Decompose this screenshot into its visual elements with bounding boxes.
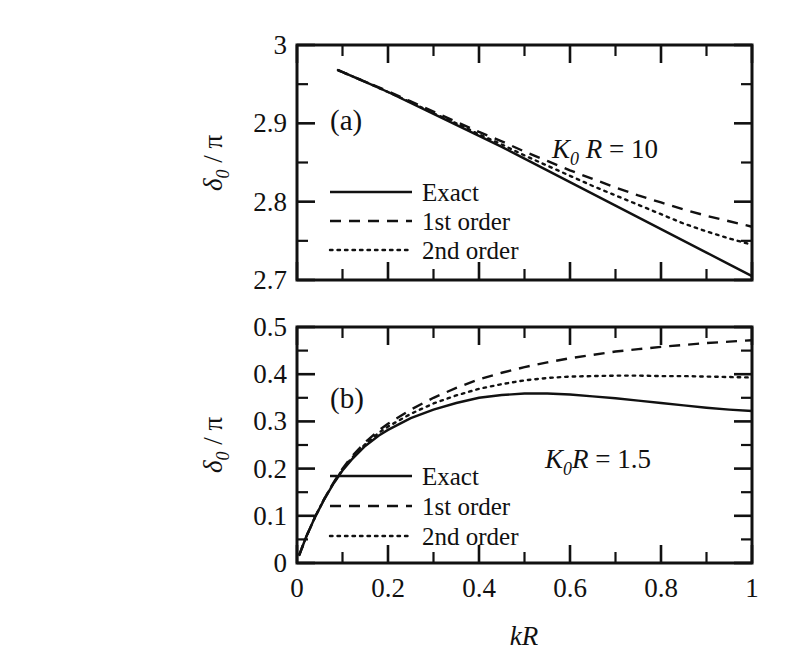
panel-a-y-major-ticks — [297, 45, 752, 280]
panel-b-yaxis-title: δ0 / π — [198, 417, 233, 474]
panel-a-annot-k: K — [551, 134, 572, 164]
svg-text:K0R = 1.5: K0R = 1.5 — [544, 444, 651, 479]
panel-a-legend: Exact 1st order 2nd order — [330, 179, 519, 264]
panel-a-yaxis-title: δ0 / π — [198, 135, 233, 192]
panel-b-ytick-label-2: 0.2 — [253, 454, 287, 484]
panel-a-y-minor-ticks — [297, 84, 752, 241]
panel-b-curve-exact — [299, 394, 752, 555]
panel-a-ylabel-delta: δ — [198, 178, 228, 191]
panel-b-xtick-label-0: 0 — [290, 573, 304, 603]
panel-b-legend-label-2nd-order: 2nd order — [422, 523, 519, 550]
panel-b-xtick-label-1: 0.2 — [371, 573, 405, 603]
panel-a-annotation: K0 R = 10 — [551, 134, 658, 169]
panel-a-curve-2nd-order — [338, 70, 752, 245]
panel-b-annot-r: R — [571, 444, 595, 474]
panel-b-xtick-label-3: 0.6 — [553, 573, 587, 603]
panel-a-ytick-label-1: 2.8 — [253, 187, 287, 217]
figure-container: 2.7 2.8 2.9 3 (a) K0 R = 10 Exact — [0, 0, 795, 668]
xaxis-title: kR — [510, 621, 539, 651]
panel-b-annot-k: K — [544, 444, 565, 474]
panel-b-annotation: K0R = 1.5 — [544, 444, 651, 479]
panel-a-ytick-label-3: 3 — [274, 30, 288, 60]
svg-text:δ0 / π: δ0 / π — [198, 417, 233, 474]
panel-b-ylabel-slash: / π — [198, 417, 228, 452]
panel-b-ytick-label-4: 0.4 — [253, 359, 287, 389]
panel-a-annot-r: R — [579, 134, 609, 164]
scattering-phase-shift-figure: 2.7 2.8 2.9 3 (a) K0 R = 10 Exact — [0, 0, 795, 668]
panel-b-ylabel-delta: δ — [198, 460, 228, 473]
panel-b-xtick-label-2: 0.4 — [462, 573, 496, 603]
panel-a-annot-sub: 0 — [570, 149, 579, 169]
panel-a-annot-eq: = 10 — [609, 134, 658, 164]
panel-a-legend-label-1st-order: 1st order — [422, 208, 511, 235]
panel-a-ytick-label-2: 2.9 — [253, 108, 287, 138]
panel-a-label: (a) — [330, 104, 362, 137]
panel-a-ylabel-slash: / π — [198, 135, 228, 170]
panel-b-legend-label-1st-order: 1st order — [422, 493, 511, 520]
panel-a-ytick-label-0: 2.7 — [253, 265, 287, 295]
panel-b: 0 0.1 0.2 0.3 0.4 0.5 0 0.2 0.4 0.6 0.8 … — [198, 312, 759, 603]
panel-a-legend-label-2nd-order: 2nd order — [422, 237, 519, 264]
panel-b-ytick-label-0: 0 — [274, 548, 288, 578]
panel-b-curve-1st-order — [299, 340, 752, 555]
panel-b-curve-2nd-order — [299, 376, 752, 555]
panel-b-xtick-label-4: 0.8 — [644, 573, 678, 603]
panel-b-legend: Exact 1st order 2nd order — [330, 463, 519, 550]
svg-text:δ0 / π: δ0 / π — [198, 135, 233, 192]
panel-a: 2.7 2.8 2.9 3 (a) K0 R = 10 Exact — [198, 30, 752, 295]
panel-a-ylabel-sub: 0 — [213, 170, 233, 179]
panel-b-ytick-label-5: 0.5 — [253, 312, 287, 342]
panel-b-x-minor-ticks — [343, 327, 707, 563]
panel-b-ytick-label-3: 0.3 — [253, 406, 287, 436]
panel-b-ytick-label-1: 0.1 — [253, 501, 287, 531]
panel-b-annot-eq: = 1.5 — [595, 444, 651, 474]
panel-a-frame — [297, 45, 752, 280]
panel-b-legend-label-exact: Exact — [422, 463, 479, 490]
panel-a-legend-label-exact: Exact — [422, 179, 479, 206]
panel-a-x-major-ticks — [297, 45, 752, 280]
svg-text:K0 R = 10: K0 R = 10 — [551, 134, 658, 169]
panel-b-annot-sub: 0 — [563, 459, 572, 479]
panel-a-curve-1st-order — [338, 70, 752, 227]
panel-b-label: (b) — [330, 382, 364, 415]
panel-a-curve-exact — [338, 70, 752, 276]
panel-b-xtick-label-5: 1 — [745, 573, 759, 603]
panel-b-ylabel-sub: 0 — [213, 452, 233, 461]
